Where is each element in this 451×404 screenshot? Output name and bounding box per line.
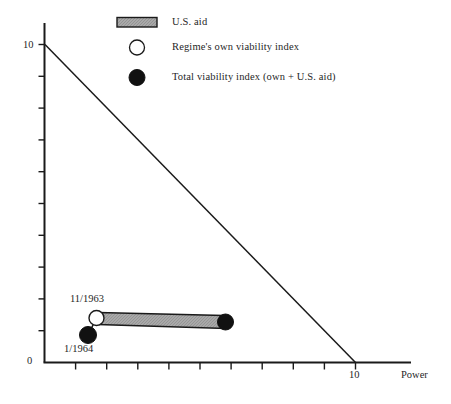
x-axis-title: Power — [401, 369, 428, 380]
total-viability-marker-left — [80, 327, 97, 344]
legend-us-aid-swatch — [117, 18, 157, 28]
y-axis-label-0: 0 — [27, 355, 32, 366]
x-axis-label-10: 10 — [349, 369, 360, 380]
legend-label-regime-own-viability: Regime's own viability index — [172, 41, 299, 52]
legend-label-us-aid: U.S. aid — [172, 16, 207, 27]
chart-figure: U.S. aid Regime's own viability index To… — [0, 0, 451, 404]
legend-filled-circle-icon — [129, 70, 145, 86]
total-viability-marker-right — [218, 314, 234, 330]
legend-label-total-viability: Total viability index (own + U.S. aid) — [172, 71, 336, 82]
legend-open-circle-icon — [130, 40, 145, 55]
y-axis-label-10: 10 — [23, 39, 34, 50]
regime-own-viability-marker — [89, 311, 104, 326]
annotation-11-1963: 11/1963 — [70, 293, 104, 304]
annotation-1-1964: 1/1964 — [64, 343, 93, 354]
